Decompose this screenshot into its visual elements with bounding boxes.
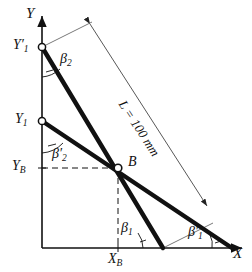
angle-label-beta1: β1 (121, 221, 133, 237)
y1-subscript: 1 (23, 118, 28, 128)
beta1-prime-letter: β (188, 224, 195, 239)
angle-label-beta2: β2 (60, 52, 72, 68)
y1-prime-subscript: 1 (24, 44, 29, 54)
y1-prime-axis-label: Y′1 (13, 38, 29, 54)
y1-axis-label: Y1 (15, 112, 28, 128)
angle-label-beta1-prime: β′1 (188, 225, 203, 241)
joint-marker-b (114, 164, 122, 172)
yb-letter: Y (12, 158, 20, 173)
xb-subscript: B (117, 258, 123, 268)
angle-arc-beta1 (138, 233, 143, 248)
beta1-prime-subscript: 1 (198, 231, 203, 241)
y1-prime-letter: Y (13, 37, 21, 52)
beta2-prime-subscript: 2 (62, 153, 67, 163)
beta2-prime-letter: β (52, 146, 59, 161)
rod-line-position-1 (42, 121, 232, 248)
extension-line-top (42, 22, 92, 47)
yb-axis-label: YB (12, 159, 26, 175)
beta2-subscript: 2 (67, 58, 72, 68)
xb-axis-label: XB (108, 252, 122, 268)
y1-letter: Y (15, 111, 23, 126)
point-b-label: B (128, 155, 137, 169)
angle-label-beta2-prime: β′2 (52, 147, 67, 163)
dimension-line (90, 24, 207, 206)
y-axis-label: Y (26, 6, 34, 21)
angle-tick-beta1 (140, 240, 146, 242)
joint-marker-y1-prime (38, 43, 45, 50)
xb-letter: X (108, 251, 117, 266)
beta1-subscript: 1 (128, 227, 133, 237)
yb-subscript: B (20, 165, 26, 175)
diagram-canvas: Y X Y′1 Y1 YB XB B β2 β′2 β1 β′1 L = 100… (0, 0, 252, 272)
beta1-letter: β (121, 220, 128, 235)
x-axis-label: X (233, 246, 242, 261)
beta2-letter: β (60, 51, 67, 66)
angle-tick-beta2 (46, 70, 53, 72)
joint-marker-y1 (38, 117, 45, 124)
